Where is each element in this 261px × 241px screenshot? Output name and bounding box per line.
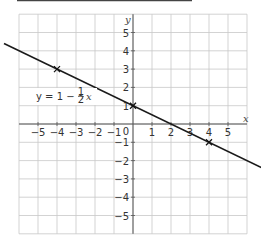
equation-label: y = 1 − 1 2 x <box>33 86 97 105</box>
axes <box>19 14 247 234</box>
equation-prefix: y = 1 − <box>36 91 75 102</box>
x-tick-label: −4 <box>50 127 65 138</box>
tick-labels: −5−4−3−2−11234554321−1−2−3−4−50xy <box>31 14 249 221</box>
y-tick-label: 4 <box>123 46 129 57</box>
coordinate-graph: −5−4−3−2−11234554321−1−2−3−4−50xy y = 1 … <box>0 0 261 241</box>
x-tick-label: 4 <box>206 127 212 138</box>
origin-label: 0 <box>123 126 129 137</box>
x-axis-label: x <box>243 113 249 124</box>
svg-text:y = 1 −: y = 1 − <box>36 91 75 102</box>
fraction-denominator: 2 <box>78 94 84 105</box>
x-tick-label: −3 <box>69 127 84 138</box>
equation-variable: x <box>86 91 92 102</box>
y-tick-label: 2 <box>123 82 129 93</box>
y-tick-label: 5 <box>123 28 129 39</box>
y-axis-label: y <box>124 14 131 25</box>
x-tick-label: −2 <box>88 127 103 138</box>
y-tick-label: 3 <box>123 64 129 75</box>
x-tick-label: 5 <box>225 127 231 138</box>
y-tick-label: −3 <box>114 174 129 185</box>
x-tick-label: 2 <box>168 127 174 138</box>
y-tick-label: −4 <box>114 192 129 203</box>
y-tick-label: −5 <box>114 211 129 222</box>
x-tick-label: −5 <box>31 127 46 138</box>
x-tick-label: 1 <box>149 127 155 138</box>
y-tick-label: −1 <box>114 137 129 148</box>
y-tick-label: −2 <box>114 156 129 167</box>
